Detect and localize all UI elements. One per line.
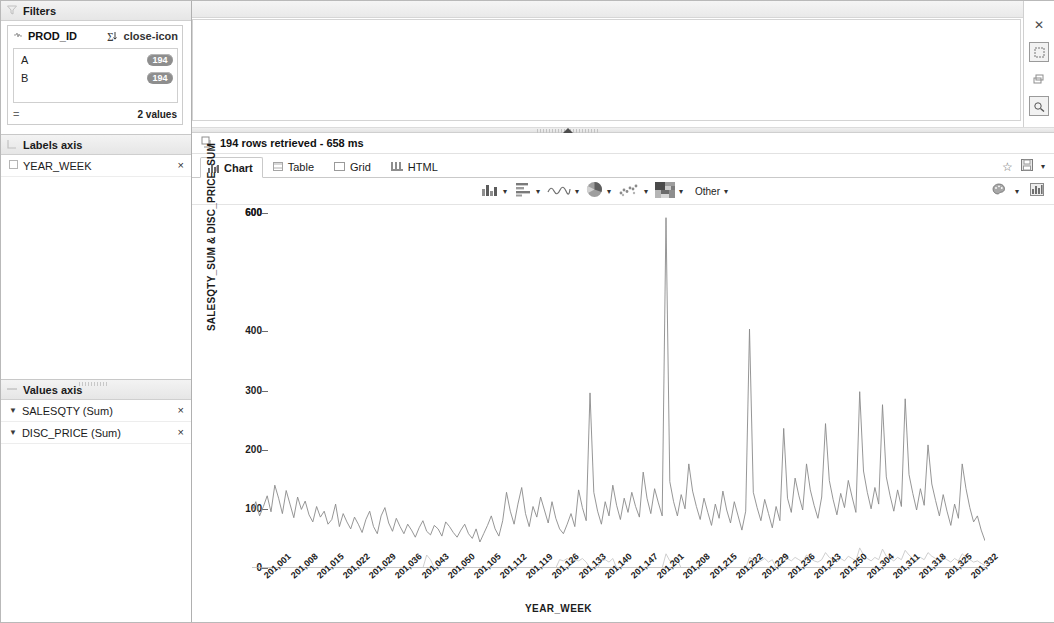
chart-toolbar-right: ▾ — [992, 182, 1044, 200]
result-status-text: 194 rows retrieved - 658 ms — [220, 137, 364, 149]
palette-caret-icon[interactable]: ▾ — [1014, 187, 1023, 196]
close-icon[interactable]: ✕ — [1029, 15, 1049, 35]
filter-value-list[interactable]: A 194 B 194 — [13, 48, 178, 103]
save-icon[interactable] — [1021, 159, 1033, 174]
chevron-down-icon[interactable]: ▾ — [643, 187, 652, 196]
field-icon — [13, 31, 23, 41]
filter-value-label: A — [21, 54, 147, 66]
horizontal-bar-chart-button[interactable]: ▾ — [514, 182, 544, 201]
results-pane: 194 rows retrieved - 658 ms Chart Table … — [192, 133, 1054, 622]
palette-icon[interactable] — [992, 182, 1007, 200]
tab-html-label: HTML — [408, 161, 438, 173]
tab-chart-label: Chart — [224, 162, 253, 174]
series-svg — [252, 213, 985, 568]
sidebar-item-disc-price[interactable]: ▼ DISC_PRICE (Sum) × — [1, 422, 191, 444]
table-icon — [273, 162, 283, 171]
tab-table-label: Table — [288, 161, 314, 173]
heatmap-chart-button[interactable]: ▾ — [655, 182, 687, 202]
line-chart-button[interactable]: ▾ — [547, 183, 583, 201]
sidebar-item-year-week[interactable]: YEAR_WEEK × — [1, 155, 191, 177]
editor-area: ✕ — [192, 1, 1054, 127]
chevron-down-icon[interactable]: ▾ — [723, 187, 732, 196]
query-builder-icon[interactable] — [1029, 96, 1049, 116]
chart-canvas: SALESQTY_SUM & DISC_PRICE_SUM 6006004003… — [192, 205, 1054, 622]
filter-value-label: B — [21, 72, 147, 84]
labels-axis-section: Labels axis YEAR_WEEK × — [1, 134, 191, 379]
values-axis-header: Values axis — [1, 380, 191, 400]
tab-table[interactable]: Table — [265, 156, 324, 177]
tab-html[interactable]: HTML — [383, 156, 448, 177]
horizontal-bar-chart-icon — [514, 182, 532, 201]
panel-resize-grip[interactable] — [79, 382, 109, 386]
status-badge: 194 — [147, 54, 173, 67]
editor-side-toolbar: ✕ — [1023, 1, 1054, 127]
filter-card-footer: = 2 values — [13, 107, 177, 121]
labels-axis-title: Labels axis — [23, 139, 82, 151]
values-axis-icon — [7, 384, 17, 396]
scatter-chart-button[interactable]: ▾ — [618, 183, 652, 201]
sql-chart-window: Filters PROD_ID ∑ close-icon — [0, 0, 1054, 623]
tab-grid[interactable]: Grid — [326, 156, 381, 177]
filter-icon — [7, 5, 17, 17]
pin-icon[interactable]: ☆ — [1002, 160, 1013, 174]
editor-canvas[interactable] — [192, 19, 1021, 121]
editor-top-strip — [192, 1, 1054, 18]
values-axis-title: Values axis — [23, 384, 82, 396]
tab-grid-label: Grid — [350, 161, 371, 173]
remove-field-icon[interactable]: × — [178, 405, 184, 416]
remove-field-icon[interactable]: × — [178, 160, 184, 171]
sidebar-item-salesqty[interactable]: ▼ SALESQTY (Sum) × — [1, 400, 191, 422]
labels-axis-icon — [7, 139, 17, 151]
heatmap-chart-icon — [655, 182, 675, 202]
filters-section: Filters PROD_ID ∑ close-icon — [1, 1, 191, 134]
filters-section-title: Filters — [23, 5, 56, 17]
chevron-down-icon[interactable]: ▼ — [9, 428, 17, 437]
result-status-bar: 194 rows retrieved - 658 ms — [192, 133, 1054, 154]
bar-chart-icon — [481, 182, 499, 201]
x-axis-title: YEAR_WEEK — [192, 603, 925, 614]
pie-chart-icon — [586, 181, 603, 202]
filter-value-count: 2 values — [138, 109, 177, 120]
chart-toolbar: ▾ ▾ ▾ — [192, 178, 1054, 205]
result-tab-tools: ☆ ▾ — [1002, 159, 1054, 177]
snippets-icon[interactable] — [1029, 69, 1049, 89]
filter-field-name: PROD_ID — [28, 30, 77, 42]
filters-section-header: Filters — [1, 1, 191, 21]
chevron-down-icon[interactable]: ▾ — [678, 187, 687, 196]
series-line-salesqty_sum — [252, 218, 985, 542]
filter-card-header: PROD_ID ∑ close-icon — [8, 26, 182, 46]
line-chart-icon — [547, 183, 571, 201]
filter-operator[interactable]: = — [13, 108, 19, 120]
labels-axis-field-label: YEAR_WEEK — [23, 160, 173, 172]
values-axis-section: Values axis ▼ SALESQTY (Sum) × ▼ DISC_PR… — [1, 379, 191, 622]
status-badge: 194 — [147, 72, 173, 85]
remove-field-icon[interactable]: × — [178, 427, 184, 438]
values-axis-field-label: DISC_PRICE (Sum) — [22, 427, 173, 439]
list-item[interactable]: B 194 — [14, 69, 177, 87]
chart-settings-icon[interactable] — [1030, 182, 1044, 200]
chart-type-group: ▾ ▾ ▾ — [481, 181, 732, 202]
list-item[interactable]: A 194 — [14, 51, 177, 69]
maximize-icon[interactable] — [1029, 42, 1049, 62]
other-chart-label[interactable]: Other — [690, 186, 720, 197]
sort-icon[interactable]: ∑ — [107, 30, 119, 43]
pie-chart-button[interactable]: ▾ — [586, 181, 615, 202]
chart-config-sidebar: Filters PROD_ID ∑ close-icon — [1, 1, 192, 622]
dimension-icon — [9, 160, 18, 171]
chevron-down-icon[interactable]: ▾ — [574, 187, 583, 196]
chevron-down-icon[interactable]: ▾ — [606, 187, 615, 196]
svg-text:∑: ∑ — [107, 31, 113, 41]
dropdown-caret-icon[interactable]: ▾ — [1041, 162, 1045, 171]
plot-area — [252, 213, 985, 568]
chevron-down-icon[interactable]: ▾ — [502, 187, 511, 196]
grid-icon — [334, 162, 345, 171]
html-icon — [391, 162, 403, 171]
chevron-down-icon[interactable]: ▾ — [535, 187, 544, 196]
result-tabs: Chart Table Grid HTML ☆ ▾ — [192, 154, 1054, 178]
values-axis-field-label: SALESQTY (Sum) — [22, 405, 173, 417]
filter-card: PROD_ID ∑ close-icon A 194 — [7, 25, 183, 125]
scatter-chart-icon — [618, 183, 640, 201]
close-icon[interactable]: close-icon — [124, 31, 178, 42]
chevron-down-icon[interactable]: ▼ — [9, 406, 17, 415]
bar-chart-button[interactable]: ▾ — [481, 182, 511, 201]
